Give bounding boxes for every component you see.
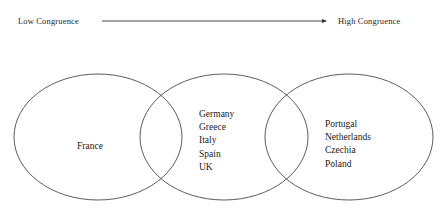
list-item: Italy [199, 134, 234, 147]
list-item: France [77, 140, 103, 153]
group-1-member-list: France [77, 140, 103, 153]
list-item: Germany [199, 108, 234, 121]
figure-canvas: Low Congruence High Congruence France Ge… [0, 0, 448, 219]
group-3-member-list: Portugal Netherlands Czechia Poland [325, 118, 371, 171]
list-item: Czechia [325, 144, 371, 157]
list-item: Greece [199, 121, 234, 134]
list-item: Poland [325, 158, 371, 171]
list-item: UK [199, 161, 234, 174]
group-1-ellipse [14, 74, 182, 200]
list-item: Netherlands [325, 131, 371, 144]
list-item: Spain [199, 148, 234, 161]
group-2-member-list: Germany Greece Italy Spain UK [199, 108, 234, 174]
list-item: Portugal [325, 118, 371, 131]
